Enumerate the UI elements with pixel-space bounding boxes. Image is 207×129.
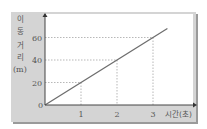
x-tick-label: 2 [115,110,120,119]
y-tick-label: 60 [32,34,42,43]
x-axis-label: 시간(초) [165,109,192,119]
x-tick-label: 1 [79,110,84,119]
y-tick-label: 20 [32,79,42,88]
x-tick-label: 0 [38,101,43,110]
y-label-part: 리 [17,53,24,62]
y-label-part: 거 [17,41,24,50]
y-label-part: (m) [13,65,27,74]
y-label-part: 이 [17,14,24,24]
y-label-part: 동 [17,27,24,36]
y-tick-label: 40 [32,56,42,65]
x-tick-label: 3 [151,110,156,119]
distance-time-chart: 0123204060 시간(초) 이동거리(m) [0,0,207,129]
